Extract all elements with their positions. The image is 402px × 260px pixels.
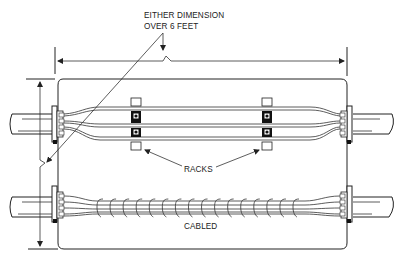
conduit-lower-left: [10, 197, 52, 217]
fitting-lower-right: [340, 186, 352, 223]
horizontal-dimension: [55, 47, 347, 76]
conduit-upper-right: [353, 114, 393, 134]
fitting-upper-right: [340, 106, 352, 144]
cabled-label: CABLED: [184, 222, 217, 231]
note-leader-arrow: [47, 33, 163, 162]
racks-label: RACKS: [184, 165, 213, 174]
conduit-upper-left: [10, 114, 52, 134]
racked-conductors: [64, 107, 340, 140]
conduit-lower-right: [353, 197, 393, 217]
dimension-note-line1: EITHER DIMENSION: [144, 11, 224, 20]
dimension-note-line2: OVER 6 FEET: [144, 22, 198, 31]
vertical-dimension: [26, 79, 58, 249]
cable-routing-diagram: EITHER DIMENSION OVER 6 FEET: [0, 0, 402, 260]
